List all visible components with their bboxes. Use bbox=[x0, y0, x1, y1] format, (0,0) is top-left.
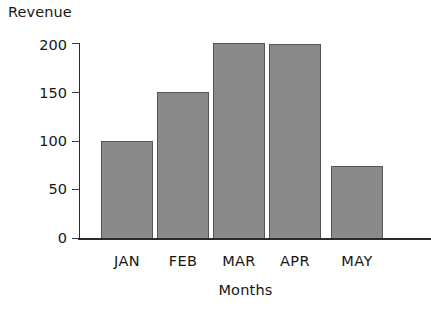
x-tick-label-feb: FEB bbox=[169, 253, 198, 269]
x-tick-label-may: MAY bbox=[341, 253, 372, 269]
y-tick-label: 0 bbox=[58, 230, 67, 246]
x-tick-label-jan: JAN bbox=[113, 253, 140, 269]
x-tick-label-apr: APR bbox=[280, 253, 310, 269]
y-axis-ticks bbox=[72, 44, 80, 239]
bar-mar bbox=[214, 44, 265, 239]
y-axis-tick-labels: 200 150 100 50 0 bbox=[39, 37, 67, 246]
y-tick-label: 150 bbox=[39, 85, 67, 101]
bar-chart: Revenue 200 150 100 50 0 bbox=[0, 0, 431, 316]
y-tick-label: 200 bbox=[39, 37, 67, 53]
x-axis-title: Months bbox=[218, 282, 272, 298]
bar-feb bbox=[158, 93, 209, 239]
bar-series bbox=[102, 44, 383, 239]
plot-area: 200 150 100 50 0 JAN FEB bbox=[0, 0, 431, 316]
x-axis-category-labels: JAN FEB MAR APR MAY bbox=[113, 253, 373, 269]
x-axis-title-wrap: Months bbox=[0, 281, 431, 299]
y-tick-label: 100 bbox=[39, 133, 67, 149]
bar-may bbox=[332, 167, 383, 239]
bar-apr bbox=[270, 45, 321, 239]
x-tick-label-mar: MAR bbox=[222, 253, 256, 269]
y-tick-label: 50 bbox=[49, 181, 67, 197]
bar-jan bbox=[102, 142, 153, 239]
